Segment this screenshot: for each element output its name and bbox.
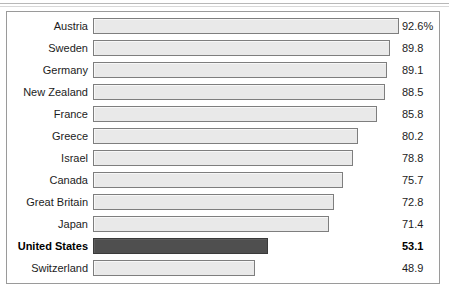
bar xyxy=(93,106,377,122)
bar-row: Great Britain72.8 xyxy=(7,191,439,213)
bar xyxy=(93,128,358,144)
bar-track xyxy=(93,40,399,56)
chart-frame: Austria92.6%Sweden89.8Germany89.1New Zea… xyxy=(6,11,440,284)
bar-track xyxy=(93,128,399,144)
bar-track xyxy=(93,260,399,276)
category-label: Canada xyxy=(7,169,88,191)
bar-row: Germany89.1 xyxy=(7,59,439,81)
category-label: Great Britain xyxy=(7,191,88,213)
page-top-rule xyxy=(0,3,449,4)
value-label: 85.8 xyxy=(402,103,423,125)
bar-row: Japan71.4 xyxy=(7,213,439,235)
bar-track xyxy=(93,106,399,122)
bar-row: Canada75.7 xyxy=(7,169,439,191)
bar-row: Sweden89.8 xyxy=(7,37,439,59)
category-label: Switzerland xyxy=(7,257,88,279)
category-label: New Zealand xyxy=(7,81,88,103)
bar-track xyxy=(93,238,399,254)
bar-track xyxy=(93,62,399,78)
category-label: France xyxy=(7,103,88,125)
value-label: 80.2 xyxy=(402,125,423,147)
page-top-rule-secondary xyxy=(0,6,449,7)
bar-track xyxy=(93,150,399,166)
bar xyxy=(93,238,268,254)
bar xyxy=(93,194,334,210)
bar-track xyxy=(93,172,399,188)
category-label: United States xyxy=(7,235,88,257)
category-label: Sweden xyxy=(7,37,88,59)
bar-row: United States53.1 xyxy=(7,235,439,257)
category-label: Greece xyxy=(7,125,88,147)
bar-row: Israel78.8 xyxy=(7,147,439,169)
bar xyxy=(93,172,343,188)
value-label: 71.4 xyxy=(402,213,423,235)
value-label: 48.9 xyxy=(402,257,423,279)
bar xyxy=(93,150,353,166)
bar-rows-container: Austria92.6%Sweden89.8Germany89.1New Zea… xyxy=(7,15,439,279)
bar-track xyxy=(93,194,399,210)
bar-row: Switzerland48.9 xyxy=(7,257,439,279)
bar xyxy=(93,216,329,232)
bar-row: Austria92.6% xyxy=(7,15,439,37)
bar-row: Greece80.2 xyxy=(7,125,439,147)
bar xyxy=(93,62,387,78)
category-label: Japan xyxy=(7,213,88,235)
category-label: Germany xyxy=(7,59,88,81)
value-label: 75.7 xyxy=(402,169,423,191)
bar xyxy=(93,40,390,56)
bar-row: France85.8 xyxy=(7,103,439,125)
bar-track xyxy=(93,84,399,100)
bar-track xyxy=(93,18,399,34)
bar xyxy=(93,18,399,34)
bar xyxy=(93,260,255,276)
bar-row: New Zealand88.5 xyxy=(7,81,439,103)
value-label: 92.6% xyxy=(402,15,433,37)
value-label: 72.8 xyxy=(402,191,423,213)
bar xyxy=(93,84,385,100)
value-label: 89.1 xyxy=(402,59,423,81)
bar-track xyxy=(93,216,399,232)
value-label: 88.5 xyxy=(402,81,423,103)
category-label: Israel xyxy=(7,147,88,169)
value-label: 78.8 xyxy=(402,147,423,169)
value-label: 89.8 xyxy=(402,37,423,59)
chart-page: Austria92.6%Sweden89.8Germany89.1New Zea… xyxy=(0,0,449,295)
category-label: Austria xyxy=(7,15,88,37)
value-label: 53.1 xyxy=(402,235,423,257)
